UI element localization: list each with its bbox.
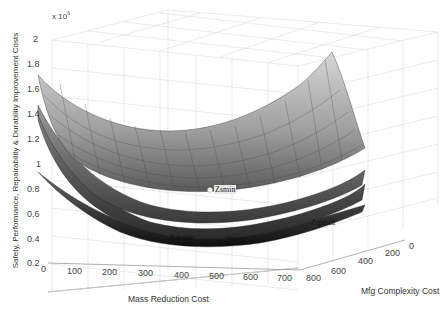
z-tick: 1.6: [27, 84, 40, 94]
x-tick: 600: [243, 272, 258, 282]
z-tick: 0.4: [27, 234, 40, 244]
annotation-zfmin: Zfmin: [225, 235, 245, 244]
z-tick: 2: [33, 34, 38, 44]
z-tick: 0.2: [27, 258, 40, 268]
x-tick: 400: [174, 270, 189, 280]
y-tick: 0: [409, 241, 414, 251]
x-tick: 700: [277, 273, 292, 283]
z-tick: 1: [36, 159, 41, 169]
z-tick: 1.4: [27, 109, 40, 119]
annotation-zrpmin: Zrpmin: [311, 218, 335, 227]
z-exponent-label: x 106: [52, 10, 70, 21]
plot-area: [0, 0, 442, 309]
annotation-zsmin: Zsmin: [214, 185, 236, 194]
chart-figure: x 106 2 1.8 1.6 1.4 1.2 1 0.8 0.6 0.4 0.…: [0, 0, 442, 309]
z-tick: 1.2: [27, 134, 40, 144]
y-tick: 800: [306, 273, 321, 283]
y-tick: 400: [358, 256, 373, 266]
z-axis-title: Safety, Performance, Repairability & Dur…: [11, 26, 20, 276]
x-tick: 300: [138, 268, 153, 278]
x-tick: 200: [102, 267, 117, 277]
z-tick: 0.8: [27, 184, 40, 194]
y-tick: 200: [385, 248, 400, 258]
x-tick: 100: [67, 266, 82, 276]
x-tick: 0: [41, 264, 46, 274]
y-tick: 600: [331, 266, 346, 276]
z-tick: 1.8: [27, 59, 40, 69]
x-tick: 500: [209, 271, 224, 281]
floor-axes: [48, 240, 405, 292]
y-axis-title: Mfg Complexity Cost: [361, 286, 439, 296]
annotation-zdrmin: Zdrmin: [170, 233, 194, 242]
z-tick: 0.6: [27, 209, 40, 219]
x-axis-title: Mass Reduction Cost: [128, 294, 209, 304]
zsmin-marker: [208, 188, 213, 193]
